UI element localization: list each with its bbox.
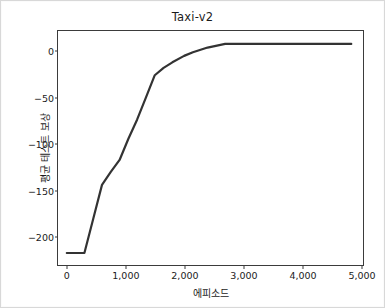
y-tick-label: 0 — [48, 46, 54, 57]
y-tick-mark — [55, 51, 59, 52]
y-tick-label: −200 — [28, 232, 54, 243]
x-tick-mark — [125, 265, 126, 269]
line-series — [58, 31, 363, 265]
x-tick-label: 1,000 — [112, 270, 139, 281]
page-title: Taxi-v2 — [1, 10, 384, 24]
x-tick-mark — [303, 265, 304, 269]
x-tick-mark — [243, 265, 244, 269]
x-tick-label: 2,000 — [171, 270, 198, 281]
y-tick-label: −150 — [28, 185, 54, 196]
y-tick-mark — [55, 190, 59, 191]
x-tick-label: 5,000 — [348, 270, 375, 281]
x-tick-label: 0 — [64, 270, 70, 281]
x-tick-mark — [362, 265, 363, 269]
x-axis-label: 에피소드 — [57, 285, 364, 300]
x-tick-mark — [184, 265, 185, 269]
x-tick-label: 4,000 — [289, 270, 316, 281]
y-axis-label: 평균 테스트 보상 — [37, 113, 52, 182]
y-tick-label: −50 — [34, 92, 54, 103]
chart-figure: Taxi-v2 0−50−100−150−20001,0002,0003,000… — [0, 0, 385, 308]
y-tick-mark — [55, 144, 59, 145]
x-tick-mark — [66, 265, 67, 269]
plot-area: 0−50−100−150−20001,0002,0003,0004,0005,0… — [57, 30, 364, 266]
y-tick-mark — [55, 97, 59, 98]
y-tick-mark — [55, 237, 59, 238]
x-tick-label: 3,000 — [230, 270, 257, 281]
